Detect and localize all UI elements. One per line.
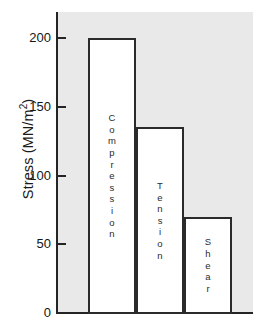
- bar-label-letter: S: [205, 236, 211, 248]
- bar-label-letter: n: [157, 203, 163, 215]
- bar-label-letter: r: [205, 283, 211, 295]
- y-axis-tick-label-0: 0: [11, 305, 51, 320]
- bar-shear[interactable]: Shear: [184, 217, 232, 314]
- y-axis-tick-0: [58, 312, 66, 314]
- y-axis-tick-200: [58, 37, 66, 39]
- bar-label-letter: s: [108, 193, 116, 205]
- bar-label-letter: T: [157, 180, 163, 192]
- bar-label-letter: r: [108, 159, 116, 171]
- bar-compression[interactable]: Compression: [88, 38, 136, 314]
- bar-label-letter: s: [157, 215, 163, 227]
- y-axis-line: [56, 12, 58, 314]
- bar-label-letter: o: [157, 238, 163, 250]
- bar-label-letter: o: [108, 124, 116, 136]
- bar-label-letter: m: [108, 135, 116, 147]
- bar-chart-figure: Stress (MN/m2) 200150100500 CompressionT…: [0, 0, 266, 325]
- y-axis-title: Stress (MN/m2): [18, 64, 36, 234]
- y-axis-tick-50: [58, 243, 66, 245]
- bar-label-letter: e: [205, 260, 211, 272]
- bar-label-compression: Compression: [108, 112, 116, 240]
- bar-label-letter: s: [108, 182, 116, 194]
- bar-label-letter: i: [108, 205, 116, 217]
- bar-label-letter: o: [108, 217, 116, 229]
- y-axis-tick-150: [58, 106, 66, 108]
- y-axis-tick-label-200: 200: [11, 30, 51, 45]
- bar-label-letter: n: [108, 228, 116, 240]
- y-axis-tick-label-50: 50: [11, 236, 51, 251]
- bar-label-letter: n: [157, 250, 163, 262]
- bar-label-shear: Shear: [205, 236, 211, 294]
- y-axis-tick-label-100: 100: [11, 168, 51, 183]
- bar-label-letter: C: [108, 112, 116, 124]
- y-axis-tick-label-150: 150: [11, 99, 51, 114]
- bar-tension[interactable]: Tension: [136, 127, 184, 314]
- bar-label-letter: h: [205, 248, 211, 260]
- bar-label-tension: Tension: [157, 180, 163, 261]
- bar-label-letter: a: [205, 271, 211, 283]
- bar-label-letter: e: [157, 192, 163, 204]
- y-axis-tick-100: [58, 175, 66, 177]
- bar-label-letter: e: [108, 170, 116, 182]
- bar-label-letter: p: [108, 147, 116, 159]
- y-axis-title-text: Stress (MN/m: [20, 109, 36, 199]
- bar-label-letter: i: [157, 226, 163, 238]
